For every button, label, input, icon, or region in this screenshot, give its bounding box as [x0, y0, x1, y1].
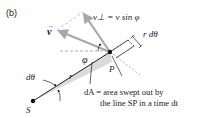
- dtheta-label: dθ: [26, 72, 36, 82]
- area-label-line2: the line SP in a time dt: [100, 98, 179, 108]
- radius-label: r: [69, 71, 73, 81]
- dashed-tangent: [110, 52, 140, 75]
- dashed-component: [57, 12, 83, 30]
- point-s-label: S: [26, 105, 31, 115]
- velocity-arrow-accent: →: [48, 23, 54, 29]
- panel-label: (b): [6, 8, 17, 18]
- dtheta-arc-bottom: [58, 90, 60, 101]
- phi-label: φ: [82, 54, 88, 65]
- point-p: [108, 50, 112, 54]
- perp-label: v⊥ = v sin φ: [93, 12, 140, 22]
- point-s: [31, 99, 35, 103]
- arc-label: r dθ: [143, 29, 158, 39]
- arc-element-box: [110, 40, 134, 58]
- area-label-line1: dA = area swept out by: [84, 87, 164, 97]
- point-p-label: P: [108, 64, 115, 74]
- kepler-area-diagram: r dθ (b) v → v⊥ = v sin φ φ r dθ P S dA …: [0, 0, 206, 118]
- dtheta-arc-top: [43, 80, 56, 86]
- arc-dimension: [131, 35, 142, 48]
